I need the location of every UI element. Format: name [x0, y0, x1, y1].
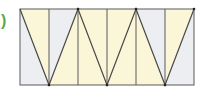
triangle-strip-figure [0, 0, 197, 109]
